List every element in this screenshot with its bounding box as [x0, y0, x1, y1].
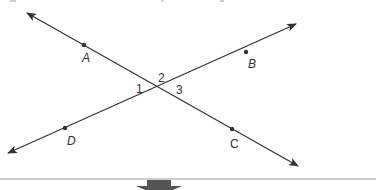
point-D-dot [63, 126, 67, 130]
down-arrow-icon [136, 180, 182, 190]
intersecting-lines-diagram: ABCD 123 [0, 0, 376, 190]
point-C-dot [230, 127, 234, 131]
point-D-label: D [67, 134, 76, 148]
angle-1-label: 1 [136, 82, 143, 96]
angle-2-label: 2 [158, 71, 165, 85]
angle-3-label: 3 [176, 83, 183, 97]
point-A-dot [82, 43, 86, 47]
point-B-label: B [248, 57, 256, 71]
point-B-dot [244, 50, 248, 54]
clipped-heading-fragment [10, 0, 224, 2]
point-C-label: C [230, 137, 239, 151]
points-group: ABCD [63, 43, 256, 151]
point-A-label: A [81, 51, 90, 65]
line-DB [8, 24, 296, 153]
